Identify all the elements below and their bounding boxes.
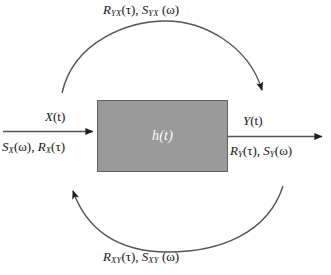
- output-acf-arg: (τ): [243, 143, 257, 158]
- input-acf-base: R: [38, 139, 46, 154]
- bottom-cpsd-arg: (ω): [159, 249, 179, 264]
- input-psd-arg: (ω): [14, 139, 31, 154]
- system-block: h(t): [97, 100, 228, 172]
- output-psd-arg: (ω): [275, 143, 292, 158]
- top-cpsd-arg: (ω): [159, 2, 179, 17]
- output-stats-label: RY(τ), SY(ω): [230, 144, 292, 159]
- bottom-ccf-base: R: [103, 249, 111, 264]
- system-block-label: h(t): [152, 128, 173, 144]
- top-cpsd-subscript: YX: [148, 8, 158, 18]
- output-signal-arg: (t): [250, 113, 262, 128]
- input-signal-label: X(t): [45, 110, 65, 124]
- bottom-ccf-subscript: XY: [111, 255, 121, 265]
- input-stats-label: SX(ω), RX(τ): [2, 140, 65, 155]
- top-ccf-subscript: YX: [111, 8, 121, 18]
- output-signal-label: Y(t): [243, 114, 263, 128]
- input-acf-arg: (τ): [51, 139, 65, 154]
- top-ccf-arg: (τ): [121, 2, 135, 17]
- bottom-cpsd-subscript: XY: [148, 255, 158, 265]
- top-cross-correlation-arc: [62, 21, 262, 93]
- input-signal-base: X: [45, 109, 53, 124]
- bottom-ccf-arg: (τ): [121, 249, 135, 264]
- output-acf-base: R: [230, 143, 238, 158]
- signal-system-diagram: h(t) X(t) SX(ω), RX(τ) Y(t) RY(τ), SY(ω)…: [0, 0, 331, 275]
- input-signal-arg: (t): [53, 109, 65, 124]
- bottom-cross-label: RXY(τ), SXY (ω): [103, 250, 179, 265]
- top-ccf-base: R: [103, 2, 111, 17]
- top-cross-label: RYX(τ), SYX (ω): [103, 3, 179, 18]
- bottom-cross-correlation-arc: [73, 186, 283, 252]
